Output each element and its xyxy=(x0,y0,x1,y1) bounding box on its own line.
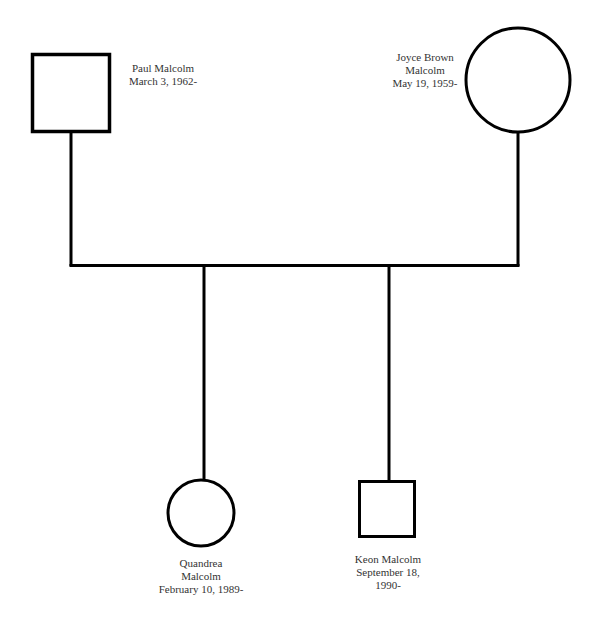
child2-label: Keon Malcolm September 18, 1990- xyxy=(346,553,430,592)
mother-name-line1: Joyce Brown xyxy=(385,51,465,64)
mother-dates: May 19, 1959- xyxy=(385,77,465,90)
father-dates: March 3, 1962- xyxy=(118,75,208,88)
child2-square-symbol xyxy=(360,482,415,537)
child1-dates: February 10, 1989- xyxy=(151,583,251,596)
mother-label: Joyce Brown Malcolm May 19, 1959- xyxy=(385,51,465,90)
mother-circle-symbol xyxy=(466,28,570,132)
child1-name-line1: Quandrea xyxy=(151,557,251,570)
mother-name-line2: Malcolm xyxy=(385,64,465,77)
father-name: Paul Malcolm xyxy=(118,62,208,75)
genogram-canvas xyxy=(0,0,597,626)
child2-dates-line1: September 18, xyxy=(346,566,430,579)
child1-label: Quandrea Malcolm February 10, 1989- xyxy=(151,557,251,596)
child2-name: Keon Malcolm xyxy=(346,553,430,566)
child1-circle-symbol xyxy=(168,480,234,546)
father-square-symbol xyxy=(33,55,110,132)
father-label: Paul Malcolm March 3, 1962- xyxy=(118,62,208,88)
child2-dates-line2: 1990- xyxy=(346,579,430,592)
child1-name-line2: Malcolm xyxy=(151,570,251,583)
